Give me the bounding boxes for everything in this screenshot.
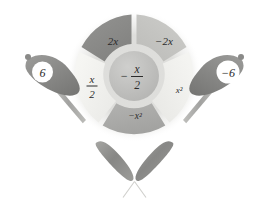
hub-label-denominator: 2 [134,79,140,91]
segment-label-left-denominator: 2 [89,88,95,100]
bottom-right-paddle[interactable] [123,141,173,197]
segment-label-top-right: −2x [155,35,173,47]
right-paddle-nub [238,54,244,60]
hub-label-numerator: x [133,63,140,75]
bottom-left-paddle-handle [135,182,147,198]
segment-label-left-numerator: x [89,73,95,85]
figure-canvas: 2x −2x x² −x² x 2 − x 2 6 [0,0,269,204]
right-paddle-value: −6 [221,66,235,80]
left-paddle-value: 6 [40,66,46,80]
bottom-left-paddle[interactable] [96,141,146,197]
segment-label-right: x² [175,85,183,95]
bottom-right-paddle-body [135,141,173,181]
segment-label-bottom: −x² [128,111,142,121]
bottom-right-paddle-handle [123,182,135,198]
hub-label-sign: − [120,69,128,83]
bottom-left-paddle-body [96,141,134,181]
left-paddle-nub [25,54,31,60]
segment-label-top-left: 2x [108,35,119,47]
